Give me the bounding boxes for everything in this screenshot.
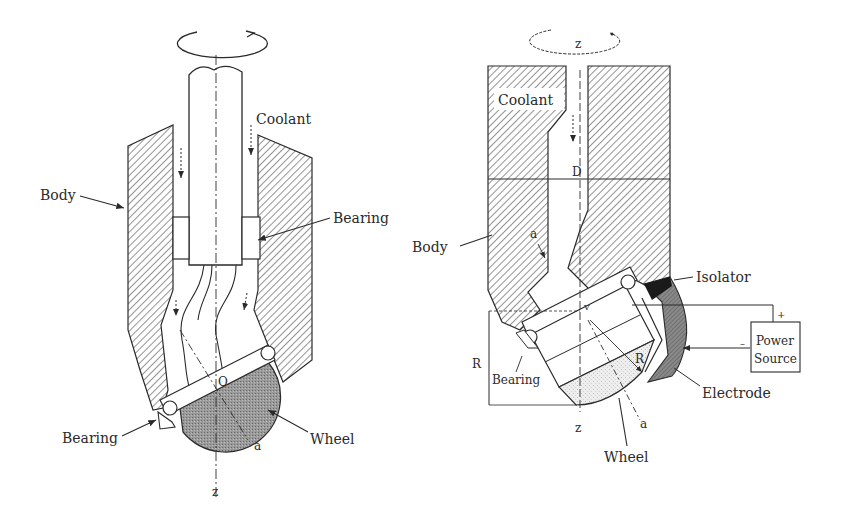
- label-axis-z-top: z: [575, 37, 581, 51]
- label-axis-z-bottom: z: [575, 421, 581, 435]
- label-wheel: Wheel: [604, 449, 649, 465]
- label-power-source-line2: Source: [754, 352, 797, 366]
- label-v: v: [583, 301, 590, 312]
- shaft: [189, 66, 242, 265]
- figure-canvas: Coolant Body Bearing Bearing Wheel O a z…: [0, 0, 841, 523]
- body-left-wall: [128, 125, 173, 410]
- label-axis-a-bottom: a: [640, 417, 647, 431]
- label-radius-left: R: [472, 357, 482, 371]
- label-radius-inner: R: [635, 352, 645, 366]
- label-isolator: Isolator: [696, 269, 751, 285]
- label-axis-z: z: [212, 485, 218, 499]
- label-bearing: Bearing: [492, 373, 540, 387]
- body-right-wall: [254, 135, 312, 382]
- label-plus: +: [777, 309, 785, 320]
- rotation-arrow-icon: [177, 31, 267, 58]
- label-bearing-top: Bearing: [333, 210, 389, 226]
- label-wheel: Wheel: [310, 431, 355, 447]
- label-body: Body: [40, 187, 76, 203]
- label-bearing-bottom: Bearing: [62, 430, 118, 446]
- bearing-top-left: [173, 217, 189, 259]
- bearing-ball-left: [163, 401, 177, 415]
- body-right-wall: [568, 66, 670, 290]
- bearing-top-right: [242, 217, 260, 259]
- bearing-ball-right: [261, 346, 275, 360]
- label-axis-a: a: [254, 439, 261, 453]
- label-coolant: Coolant: [498, 92, 553, 108]
- label-power-source-line1: Power: [756, 334, 794, 348]
- left-diagram: Coolant Body Bearing Bearing Wheel O a z: [40, 31, 389, 500]
- right-diagram: z D R: [412, 30, 800, 465]
- label-axis-a-top: a: [530, 227, 537, 241]
- label-electrode: Electrode: [702, 385, 771, 401]
- bearing-ball-right: [621, 275, 635, 289]
- label-body: Body: [412, 239, 448, 255]
- label-minus: –: [740, 338, 745, 349]
- label-center-o: O: [218, 375, 228, 389]
- label-coolant: Coolant: [256, 111, 311, 127]
